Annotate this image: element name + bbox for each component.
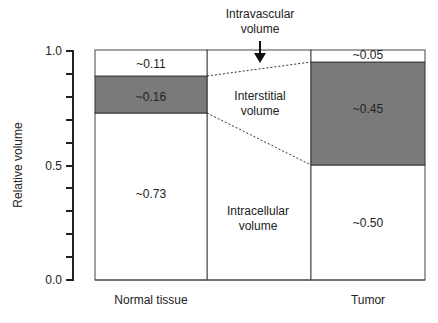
label-tumor-intravascular: ~0.05 [311, 48, 425, 62]
y-ticks [66, 51, 73, 280]
annotation-intracellular: Intracellular volume [205, 204, 311, 234]
annotation-intracellular-line2: volume [205, 219, 311, 234]
annotation-intravascular-line1: Intravascular [207, 7, 313, 22]
y-tick-label-0: 0.0 [32, 273, 62, 287]
annotation-column [207, 50, 311, 280]
label-tumor-interstitial: ~0.45 [311, 102, 425, 116]
annotation-interstitial: Interstitial volume [207, 89, 313, 119]
label-normal-interstitial: ~0.16 [95, 90, 207, 104]
annotation-intravascular: Intravascular volume [207, 7, 313, 37]
label-normal-intracellular: ~0.73 [95, 187, 207, 201]
annotation-interstitial-line2: volume [207, 104, 313, 119]
annotation-intravascular-line2: volume [207, 22, 313, 37]
category-label-normal-tissue: Normal tissue [95, 293, 207, 307]
label-tumor-intracellular: ~0.50 [311, 216, 425, 230]
label-normal-intravascular: ~0.11 [95, 57, 207, 71]
y-tick-label-05: 0.5 [32, 159, 62, 173]
y-axis-title: Relative volume [11, 122, 25, 207]
bar-tumor [311, 50, 425, 280]
annotation-intracellular-line1: Intracellular [205, 204, 311, 219]
bar-normal-tissue [95, 50, 207, 280]
annotation-interstitial-line1: Interstitial [207, 89, 313, 104]
category-label-tumor: Tumor [311, 293, 425, 307]
y-tick-label-1: 1.0 [32, 44, 62, 58]
